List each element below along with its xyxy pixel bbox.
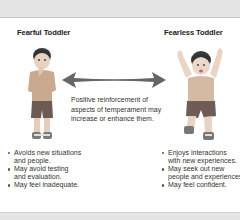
list-item: May avoid testing and evaluation.	[7, 165, 92, 181]
fearful-toddler-icon	[22, 46, 62, 142]
list-item: Avoids new situations and people.	[7, 149, 92, 165]
bullet-icon	[8, 168, 10, 170]
bullet-icon	[8, 184, 10, 186]
top-band	[0, 0, 240, 18]
fearless-toddler-heading: Fearless Toddler	[164, 28, 223, 37]
fearful-toddler-heading: Fearful Toddler	[17, 28, 70, 37]
fearless-traits-list: Enjoys interactions with new experiences…	[161, 149, 240, 189]
bullet-icon	[162, 168, 164, 170]
fearless-toddler-icon	[172, 44, 230, 144]
bullet-icon	[162, 184, 164, 186]
list-item: May feel confident.	[161, 181, 240, 189]
bottom-band	[0, 212, 240, 220]
list-item: Enjoys interactions with new experiences…	[161, 149, 240, 165]
reinforcement-caption: Positive reinforcement of aspects of tem…	[71, 95, 171, 124]
fearful-traits-list: Avoids new situations and people. May av…	[7, 149, 92, 189]
list-item: May seek out new people and experiences.	[161, 165, 240, 181]
bullet-icon	[162, 152, 164, 154]
bullet-icon	[8, 152, 10, 154]
caption-line: aspects of temperament may	[71, 105, 171, 115]
caption-line: Positive reinforcement of	[71, 95, 171, 105]
list-item: May feel inadequate.	[7, 181, 92, 189]
double-headed-arrow-icon	[62, 72, 166, 88]
caption-line: increase or enhance them.	[71, 114, 171, 124]
